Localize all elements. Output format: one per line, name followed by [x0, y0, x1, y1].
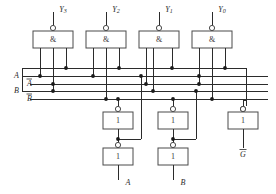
inv-g-inversion-bubble — [240, 106, 245, 111]
nand-gate-y3-group: & — [33, 12, 73, 91]
logic-circuit-diagram: & & & & — [0, 0, 276, 194]
junction-dot — [171, 137, 175, 141]
junction-dots-group — [38, 66, 227, 141]
inv-b2-inversion-bubble — [170, 142, 175, 147]
junction-dot — [116, 97, 120, 101]
nand-gate-y3-symbol: & — [50, 35, 57, 44]
output-label-b: B — [181, 178, 186, 187]
bus-label-b: B — [14, 86, 19, 95]
nand-gate-y1-symbol: & — [156, 35, 163, 44]
inverter-g-symbol: 1 — [241, 116, 245, 125]
nand-gate-y2-symbol: & — [103, 35, 110, 44]
feedback-a-not-group — [118, 76, 141, 139]
junction-dot — [116, 137, 120, 141]
junction-dot — [117, 66, 121, 70]
y0-inversion-bubble — [209, 25, 214, 30]
bus-label-b-not: B — [27, 94, 32, 103]
output-label-y2: Y2 — [112, 5, 119, 14]
inverter-b2-symbol: 1 — [171, 152, 175, 161]
output-labels-top: Y3 Y2 Y1 Y0 — [59, 5, 225, 14]
junction-dot — [104, 97, 108, 101]
junction-dot — [170, 66, 174, 70]
junction-dot — [210, 97, 214, 101]
junction-dot — [151, 89, 155, 93]
nand-gate-y0-symbol: & — [209, 35, 216, 44]
nand-gate-y0-group: & — [192, 12, 232, 99]
junction-dot — [139, 74, 143, 78]
inv-a1-inversion-bubble — [115, 106, 120, 111]
inv-a2-inversion-bubble — [115, 142, 120, 147]
output-label-y0: Y0 — [218, 5, 225, 14]
nand-gate-y2-group: & — [86, 12, 126, 99]
junction-dot — [197, 74, 201, 78]
inverter-b1-symbol: 1 — [171, 116, 175, 125]
junction-dot — [51, 82, 55, 86]
bus-label-a: A — [13, 71, 19, 80]
junction-dot — [171, 97, 175, 101]
output-label-y1: Y1 — [165, 5, 172, 14]
output-label-a: A — [125, 178, 131, 187]
nand-gate-y1-group: & — [139, 12, 179, 91]
y2-inversion-bubble — [103, 25, 108, 30]
junction-dot — [91, 74, 95, 78]
inverter-g-group: 1 — [228, 68, 258, 148]
inverter-a2-symbol: 1 — [116, 152, 120, 161]
inverter-a1-symbol: 1 — [116, 116, 120, 125]
bus-label-a-not: A — [26, 79, 32, 88]
inv-b1-inversion-bubble — [170, 106, 175, 111]
junction-dot — [194, 89, 198, 93]
y3-inversion-bubble — [50, 25, 55, 30]
output-label-g-not: G — [240, 150, 246, 159]
junction-dot — [223, 66, 227, 70]
output-label-y3: Y3 — [59, 5, 66, 14]
junction-dot — [38, 74, 42, 78]
circuit-schematic-canvas: & & & & — [0, 0, 276, 194]
y1-inversion-bubble — [156, 25, 161, 30]
junction-dot — [64, 66, 68, 70]
junction-dot — [197, 82, 201, 86]
junction-dot — [51, 89, 55, 93]
inverter-b2-group: 1 — [158, 142, 188, 180]
inverter-a2-group: 1 — [103, 142, 133, 180]
junction-dot — [144, 82, 148, 86]
